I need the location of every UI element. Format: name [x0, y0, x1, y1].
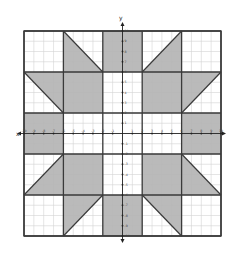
shaded-square-upper-left-center — [63, 72, 102, 113]
x-tick-mark — [92, 133, 94, 135]
y-tick-mark — [122, 184, 124, 186]
y-tick-label: -1 — [125, 142, 128, 146]
y-tick-mark — [122, 174, 124, 176]
x-tick-label: -6 — [62, 129, 65, 133]
x-tick-mark — [63, 133, 65, 135]
y-tick-label: -7 — [125, 203, 128, 207]
x-tick-label: -7 — [52, 129, 55, 133]
y-tick-label: -4 — [125, 173, 128, 177]
y-tick-label: 9 — [125, 39, 127, 43]
x-tick-label: 1 — [131, 129, 133, 133]
y-axis-label: y — [119, 14, 123, 22]
x-tick-mark — [43, 133, 45, 135]
x-tick-mark — [53, 133, 55, 135]
x-tick-label: 3 — [151, 129, 153, 133]
y-tick-label: -9 — [125, 224, 128, 228]
x-tick-label: -1 — [111, 129, 114, 133]
x-tick-mark — [33, 133, 35, 135]
y-tick-label: -3 — [125, 162, 128, 166]
x-tick-mark — [191, 133, 193, 135]
x-tick-label: -3 — [91, 129, 94, 133]
y-tick-mark — [122, 143, 124, 145]
x-tick-label: -4 — [82, 129, 85, 133]
y-tick-mark — [122, 40, 124, 42]
y-tick-mark — [122, 122, 124, 124]
y-tick-mark — [122, 204, 124, 206]
x-tick-mark — [131, 133, 133, 135]
coordinate-plane: -10-9-8-7-6-5-4-3-2-11234567891010987654… — [0, 0, 236, 256]
y-tick-mark — [122, 225, 124, 227]
x-tick-label: 5 — [171, 129, 173, 133]
x-tick-mark — [181, 133, 183, 135]
y-tick-mark — [122, 112, 124, 114]
x-tick-mark — [72, 133, 74, 135]
y-tick-mark — [122, 51, 124, 53]
x-tick-mark — [102, 133, 104, 135]
quilt-coordinate-diagram: -10-9-8-7-6-5-4-3-2-11234567891010987654… — [0, 0, 236, 256]
y-tick-mark — [122, 92, 124, 94]
x-tick-mark — [171, 133, 173, 135]
x-tick-mark — [23, 133, 25, 135]
x-tick-label: -8 — [42, 129, 45, 133]
x-tick-mark — [112, 133, 114, 135]
shaded-square-lower-left-center — [63, 154, 102, 195]
y-tick-label: 2 — [125, 111, 127, 115]
x-tick-mark — [151, 133, 153, 135]
y-axis-arrow-icon — [121, 239, 125, 243]
y-tick-mark — [122, 71, 124, 73]
y-tick-mark — [122, 194, 124, 196]
shaded-square-lower-right-center — [142, 154, 181, 195]
y-axis-arrow-icon — [121, 22, 125, 26]
y-tick-mark — [122, 153, 124, 155]
x-tick-mark — [200, 133, 202, 135]
y-tick-label: 3 — [125, 101, 127, 105]
y-tick-label: 7 — [125, 60, 127, 64]
x-tick-label: 10 — [219, 129, 223, 133]
x-tick-mark — [141, 133, 143, 135]
y-tick-label: -5 — [125, 183, 128, 187]
y-tick-label: -10 — [125, 234, 130, 238]
x-tick-label: 6 — [181, 129, 183, 133]
y-tick-label: -2 — [125, 152, 128, 156]
x-tick-label: 9 — [210, 129, 212, 133]
y-tick-label: 5 — [125, 80, 127, 84]
x-tick-mark — [210, 133, 212, 135]
y-tick-mark — [122, 30, 124, 32]
y-tick-label: 4 — [125, 91, 127, 95]
x-tick-label: 8 — [200, 129, 202, 133]
x-tick-mark — [82, 133, 84, 135]
y-tick-label: 10 — [125, 29, 129, 33]
y-tick-label: 8 — [125, 50, 127, 54]
x-tick-label: 4 — [161, 129, 163, 133]
x-axis-label: x — [16, 130, 20, 137]
y-tick-mark — [122, 215, 124, 217]
y-tick-mark — [122, 163, 124, 165]
x-tick-mark — [161, 133, 163, 135]
y-tick-mark — [122, 61, 124, 63]
y-tick-label: -6 — [125, 193, 128, 197]
x-tick-label: 2 — [141, 129, 143, 133]
y-tick-label: 1 — [125, 121, 127, 125]
y-tick-mark — [122, 102, 124, 104]
x-tick-mark — [220, 133, 222, 135]
x-tick-label: -5 — [72, 129, 75, 133]
x-tick-label: -2 — [101, 129, 104, 133]
x-tick-label: 7 — [190, 129, 192, 133]
shaded-square-upper-right-center — [142, 72, 181, 113]
y-tick-mark — [122, 81, 124, 83]
y-tick-mark — [122, 235, 124, 237]
x-tick-label: -9 — [32, 129, 35, 133]
y-tick-label: -8 — [125, 214, 128, 218]
y-tick-label: 6 — [125, 70, 127, 74]
x-tick-label: -10 — [21, 129, 26, 133]
